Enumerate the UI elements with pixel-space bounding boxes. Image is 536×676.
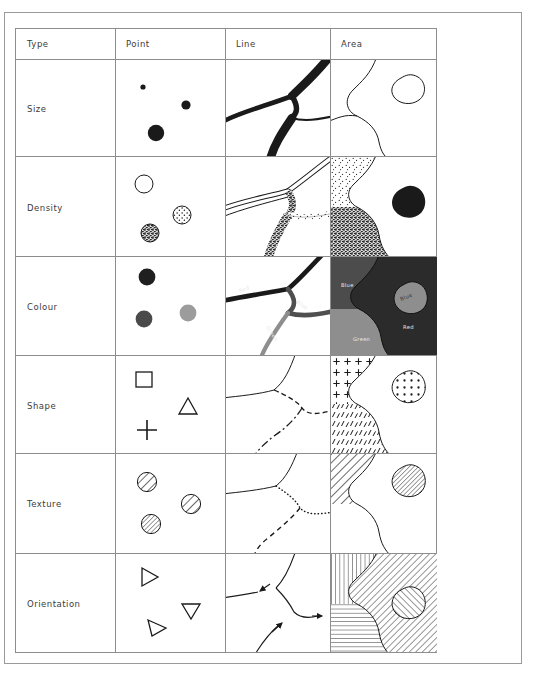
cell-orientation-point <box>116 554 225 652</box>
header-type: Type <box>27 29 49 59</box>
cell-texture-point <box>116 454 225 553</box>
cell-colour-point <box>116 257 225 355</box>
line-label-red: Red <box>238 284 250 294</box>
row-label-density: Density <box>27 203 63 213</box>
visual-variables-matrix: Type Point Line Area Size Density Colour… <box>15 28 437 653</box>
cell-shape-line <box>226 356 330 453</box>
figure-page: Type Point Line Area Size Density Colour… <box>0 0 536 676</box>
cell-colour-area: Blue Blue Red Green <box>331 257 437 355</box>
cell-size-area <box>331 60 437 156</box>
header-point: Point <box>126 29 150 59</box>
cell-texture-line <box>226 454 330 553</box>
cell-density-line <box>226 157 330 256</box>
cell-orientation-line <box>226 554 330 652</box>
row-label-orientation: Orientation <box>27 599 81 609</box>
line-label-blue: Blue <box>295 299 309 311</box>
cell-size-line <box>226 60 330 156</box>
header-area: Area <box>341 29 363 59</box>
row-label-texture: Texture <box>27 499 62 509</box>
area-label-green: Green <box>353 336 370 342</box>
cell-texture-area <box>331 454 437 553</box>
cell-orientation-area <box>331 554 437 652</box>
row-label-shape: Shape <box>27 401 56 411</box>
cell-size-point <box>116 60 225 156</box>
area-label-red: Red <box>403 324 414 330</box>
row-label-colour: Colour <box>27 302 58 312</box>
cell-shape-point <box>116 356 225 453</box>
cell-shape-area <box>331 356 437 453</box>
cell-density-point <box>116 157 225 256</box>
header-line: Line <box>236 29 256 59</box>
cell-colour-line: Red Blue Green <box>226 257 330 355</box>
cell-density-area <box>331 157 437 256</box>
area-label-blue: Blue <box>341 282 354 288</box>
row-label-size: Size <box>27 104 46 114</box>
